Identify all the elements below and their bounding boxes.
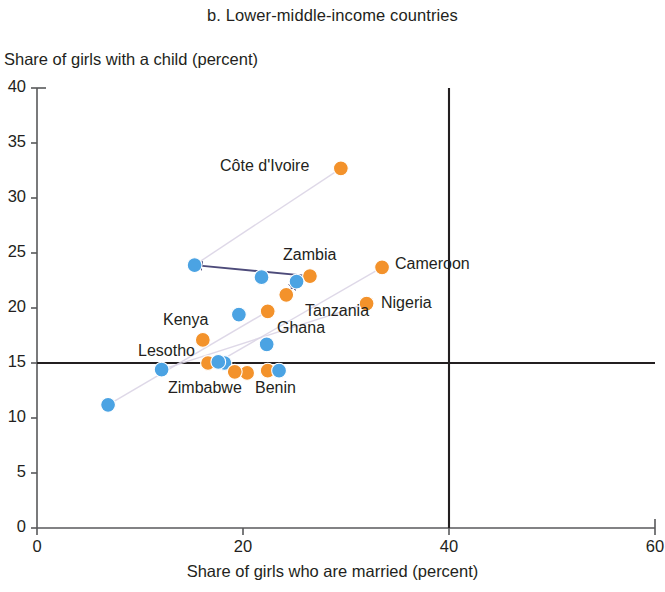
data-point-blue-zimbabwe[interactable] bbox=[211, 355, 226, 370]
data-point-blue[interactable] bbox=[254, 270, 269, 285]
data-point-orange-ghana[interactable] bbox=[260, 304, 275, 319]
point-label-kenya: Kenya bbox=[163, 311, 208, 329]
data-point-orange-tanzania[interactable] bbox=[279, 287, 294, 302]
data-point-orange-c-te-d-ivoire[interactable] bbox=[333, 161, 348, 176]
point-label-tanzania: Tanzania bbox=[305, 302, 369, 320]
point-label-cote-divoire: Côte d'Ivoire bbox=[220, 157, 309, 175]
x-axis-tick-label: 60 bbox=[635, 537, 665, 556]
data-point-blue[interactable] bbox=[259, 337, 274, 352]
change-arrow-zambia bbox=[195, 265, 310, 276]
point-label-nigeria: Nigeria bbox=[381, 294, 432, 312]
point-label-cameroon: Cameroon bbox=[395, 255, 470, 273]
data-point-blue-zambia[interactable] bbox=[187, 258, 202, 273]
point-label-ghana: Ghana bbox=[277, 319, 325, 337]
point-label-lesotho: Lesotho bbox=[138, 342, 195, 360]
y-axis-tick-label: 5 bbox=[0, 462, 26, 481]
y-axis-tick-label: 25 bbox=[0, 242, 26, 261]
data-point-blue-benin[interactable] bbox=[272, 363, 287, 378]
x-axis-tick-label: 0 bbox=[17, 537, 57, 556]
data-point-blue-kenya[interactable] bbox=[231, 307, 246, 322]
x-axis-tick-label: 20 bbox=[223, 537, 263, 556]
point-label-zimbabwe: Zimbabwe bbox=[168, 379, 242, 397]
data-points-group bbox=[101, 161, 390, 412]
y-axis-tick-label: 0 bbox=[0, 517, 26, 536]
x-axis-tick-label: 40 bbox=[429, 537, 469, 556]
data-point-orange-kenya[interactable] bbox=[195, 333, 210, 348]
y-axis-tick-label: 15 bbox=[0, 352, 26, 371]
y-axis-tick-label: 10 bbox=[0, 407, 26, 426]
data-point-blue[interactable] bbox=[101, 397, 116, 412]
y-axis-tick-label: 35 bbox=[0, 132, 26, 151]
y-axis-tick-label: 30 bbox=[0, 187, 26, 206]
data-point-orange-zimbabwe[interactable] bbox=[227, 364, 242, 379]
data-point-orange-cameroon[interactable] bbox=[375, 260, 390, 275]
data-point-blue-tanzania[interactable] bbox=[289, 274, 304, 289]
y-axis-tick-label: 20 bbox=[0, 297, 26, 316]
data-point-orange-zambia[interactable] bbox=[303, 269, 318, 284]
y-axis-tick-label: 40 bbox=[0, 77, 26, 96]
point-label-benin: Benin bbox=[255, 379, 296, 397]
point-label-zambia: Zambia bbox=[283, 246, 336, 264]
chart-figure: b. Lower-middle-income countries Share o… bbox=[0, 0, 665, 592]
scatter-plot-canvas bbox=[0, 0, 665, 592]
data-point-blue-lesotho[interactable] bbox=[154, 362, 169, 377]
